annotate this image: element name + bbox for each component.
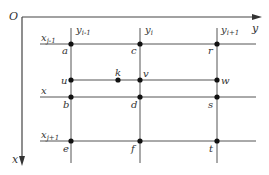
point-label-d: d [131, 99, 137, 110]
column-label-y-i: yi [144, 24, 153, 37]
point-v [137, 77, 142, 82]
column-label-y-i+1: yi+1 [220, 24, 239, 37]
grid-diagram: O y x yi-1 yi yi+1 xj-1 x xj+1 a c r u k… [0, 0, 269, 175]
point-u [68, 77, 73, 82]
point-label-f: f [130, 143, 137, 154]
point-c [137, 41, 142, 46]
point-label-b: b [63, 99, 69, 110]
column-label-y-i-1: yi-1 [75, 24, 91, 37]
x-axis-arrow-icon [19, 156, 25, 166]
diagram-svg: O y x yi-1 yi yi+1 xj-1 x xj+1 a c r u k… [0, 0, 269, 175]
point-label-r: r [208, 45, 214, 56]
point-w [214, 77, 219, 82]
row-label-x-j-1: xj-1 [41, 32, 56, 45]
point-label-c: c [131, 45, 137, 56]
point-label-s: s [208, 99, 213, 110]
point-d [137, 94, 142, 99]
x-axis-label: x [12, 153, 19, 166]
point-label-k: k [115, 67, 121, 78]
point-r [214, 41, 219, 46]
point-t [214, 138, 219, 143]
point-label-v: v [143, 68, 149, 79]
point-s [214, 94, 219, 99]
y-axis-label: y [251, 22, 259, 35]
point-label-e: e [63, 143, 69, 154]
point-label-t: t [209, 143, 214, 154]
y-axis-arrow-icon [252, 14, 262, 20]
origin-label: O [9, 10, 18, 23]
point-a [68, 41, 73, 46]
row-label-x-j+1: xj+1 [41, 129, 59, 142]
point-e [68, 138, 73, 143]
point-k [115, 77, 120, 82]
row-label-x: x [41, 85, 47, 96]
point-label-u: u [61, 75, 67, 86]
point-label-a: a [62, 45, 68, 56]
point-label-w: w [221, 75, 230, 86]
point-f [137, 138, 142, 143]
